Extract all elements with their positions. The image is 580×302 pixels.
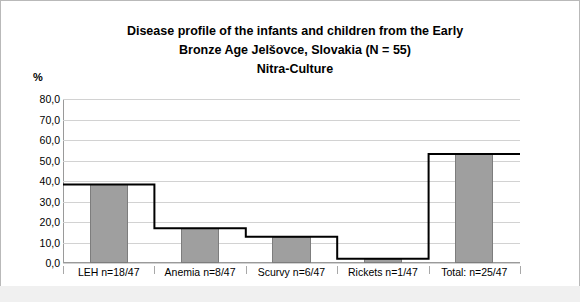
x-axis-tick: LEH n=18/47 [63,266,154,278]
y-axis-tick: 50,0 [8,155,60,167]
gridline [63,263,520,264]
y-axis-label: % [33,71,43,83]
x-axis-tick: Rickets n=1/47 [337,266,428,278]
y-axis-tick: 40,0 [8,175,60,187]
y-axis-tick-labels: 0,010,020,030,040,050,060,070,080,0 [4,99,60,263]
chart-title-line-1: Disease profile of the infants and child… [60,22,530,41]
x-axis-tick-mark [63,266,64,274]
chart-title-line-3: Nitra-Culture [60,60,530,79]
y-axis-tick: 70,0 [8,114,60,126]
x-axis-tick: Anemia n=8/47 [154,266,245,278]
y-axis-tick: 20,0 [8,216,60,228]
y-axis-tick: 80,0 [8,93,60,105]
y-axis-tick: 30,0 [8,196,60,208]
x-axis-tick-mark [246,266,247,274]
step-line [63,99,520,263]
chart-title-line-2: Bronze Age Jelšovce, Slovakia (N = 55) [60,41,530,60]
x-axis-tick: Total: n=25/47 [429,266,520,278]
footer-band [0,286,580,302]
chart-container: Disease profile of the infants and child… [0,0,580,302]
chart-title: Disease profile of the infants and child… [60,22,530,79]
frame-border-left [0,0,1,302]
x-axis-tick-mark [154,266,155,274]
y-axis-tick: 0,0 [8,257,60,269]
x-axis-tick-mark [337,266,338,274]
x-axis-tick-mark [429,266,430,274]
x-axis-tick: Scurvy n=6/47 [246,266,337,278]
x-axis-tick-labels: LEH n=18/47Anemia n=8/47Scurvy n=6/47Ric… [63,266,520,284]
plot-area [63,99,520,263]
y-axis-tick: 60,0 [8,134,60,146]
y-axis-tick: 10,0 [8,237,60,249]
frame-border-top [0,0,580,1]
x-axis-tick-mark [520,266,521,274]
